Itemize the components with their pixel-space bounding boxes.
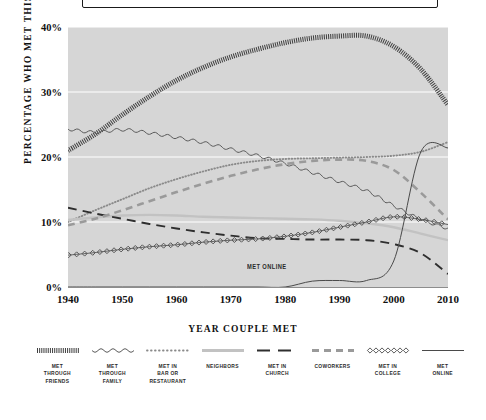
y-tick-label: 30% [41,87,62,98]
x-tick-label: 1970 [220,293,242,305]
plot-annotation: MET ONLINE [247,263,287,270]
legend-item[interactable]: MET INCOLLEGE [360,346,415,378]
dotted-swatch [145,346,191,355]
x-tick-label: 1980 [274,293,296,305]
legend-label: METTHROUGHFRIENDS [44,363,71,385]
x-axis-line [68,287,448,288]
med-dash-swatch [310,346,356,355]
solid-light-swatch [200,346,246,355]
legend-label: METONLINE [432,363,452,378]
legend-item[interactable]: MET INCHURCH [250,346,305,378]
legend-label: NEIGHBORS [206,363,239,370]
x-tick-label: 2000 [383,293,405,305]
series-line [68,129,448,229]
diamonds-swatch [365,346,411,355]
legend-label: COWORKERS [315,363,351,370]
legend-item[interactable]: MET INBAR ORRESTAURANT [140,346,195,385]
legend-item[interactable]: METTHROUGHFAMILY [85,346,140,385]
x-tick-label: 1950 [111,293,133,305]
legend-item[interactable]: COWORKERS [305,346,360,370]
hatched-swatch [35,346,81,355]
thin-solid-swatch [420,346,466,355]
title-box [82,0,438,8]
legend-label: METTHROUGHFAMILY [99,363,126,385]
long-dash-swatch [255,346,301,355]
legend-item[interactable]: NEIGHBORS [195,346,250,370]
series-line [68,35,448,150]
legend-label: MET INCOLLEGE [375,363,401,378]
legend-item[interactable]: METONLINE [415,346,470,378]
y-tick-label: 40% [41,22,62,33]
legend-item[interactable]: METTHROUGHFRIENDS [30,346,85,385]
y-axis-title: PERCENTAGE WHO MET THIS WAY [23,0,33,165]
x-tick-label: 2010 [437,293,459,305]
y-tick-label: 0% [46,282,62,293]
series-line [68,214,448,257]
legend: METTHROUGHFRIENDSMETTHROUGHFAMILYMET INB… [30,346,470,416]
x-axis-title: YEAR COUPLE MET [0,324,486,334]
x-tick-label: 1990 [328,293,350,305]
legend-label: MET INCHURCH [266,363,289,378]
chart-page: PERCENTAGE WHO MET THIS WAY 0%10%20%30%4… [0,0,486,420]
plot-area: 0%10%20%30%40% 1940195019601970198019902… [68,27,448,287]
y-tick-label: 20% [41,152,62,163]
chart-canvas [68,27,448,287]
wavy-swatch [90,346,136,355]
y-tick-label: 10% [41,217,62,228]
x-tick-label: 1960 [166,293,188,305]
legend-label: MET INBAR ORRESTAURANT [149,363,186,385]
x-tick-label: 1940 [57,293,79,305]
